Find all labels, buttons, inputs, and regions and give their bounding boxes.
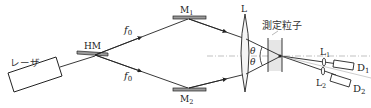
beam-arrow-upper-2 xyxy=(189,19,225,32)
beam-arrow-upper-1 xyxy=(95,38,140,55)
mirror-m2 xyxy=(173,88,206,91)
particle-label: 測定粒子 xyxy=(262,19,302,31)
theta-upper-label: θ xyxy=(250,46,256,56)
detector-d1-label: D1 xyxy=(357,62,370,75)
mirror-m1-label: M1 xyxy=(180,5,193,17)
optical-diagram: レーザ HM f0 f0 M1 M2 L 測定粒子 θ θ L1 xyxy=(0,0,371,108)
mirror-m2-label: M2 xyxy=(180,94,193,106)
lens-l1-label: L1 xyxy=(320,47,330,59)
theta-arc xyxy=(260,47,262,65)
theta-lower-label: θ xyxy=(250,57,256,67)
f0-lower-label: f0 xyxy=(123,70,132,83)
lens-l2-label: L2 xyxy=(316,78,326,90)
detector-d2-label: D2 xyxy=(353,83,366,96)
half-mirror-label: HM xyxy=(84,41,101,51)
detector-d1 xyxy=(333,60,354,70)
beam-laser-to-hm xyxy=(60,56,95,67)
lens-l xyxy=(241,14,249,92)
lens-l1 xyxy=(322,58,325,66)
particle-leader-line xyxy=(272,31,278,35)
laser-label: レーザ xyxy=(10,57,40,68)
beam-arrow-lower-1 xyxy=(95,55,140,71)
detector-d2 xyxy=(330,74,351,87)
lens-l2 xyxy=(321,67,324,75)
lens-l-label: L xyxy=(241,4,247,14)
beam-arrow-lower-2 xyxy=(189,79,225,88)
f0-upper-label: f0 xyxy=(123,24,132,37)
